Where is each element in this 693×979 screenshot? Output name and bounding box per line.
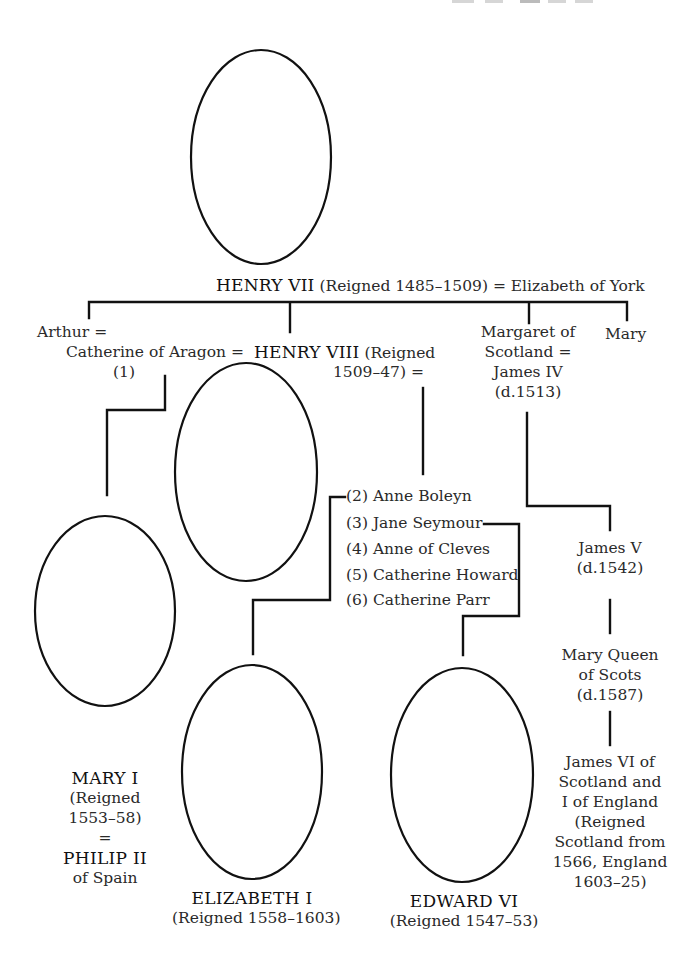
james-v-name: James V — [560, 538, 660, 558]
wife-jane-seymour: (3) Jane Seymour — [346, 514, 482, 533]
henry-vii-detail: (Reigned 1485–1509) — [319, 277, 487, 295]
margaret-line: Margaret of — [469, 322, 587, 342]
margaret-line: James IV — [469, 362, 587, 382]
margaret-line: (d.1513) — [469, 382, 587, 402]
edward-vi-name: EDWARD VI — [384, 891, 544, 911]
james-vi-line: 1566, England — [550, 852, 670, 872]
philip-ii-name: PHILIP II — [45, 848, 165, 868]
wife-catherine-parr: (6) Catherine Parr — [346, 591, 490, 610]
james-vi-line: 1603–25) — [550, 872, 670, 892]
philip-ii-detail: of Spain — [45, 868, 165, 888]
elizabeth-i-name: ELIZABETH I — [172, 888, 332, 908]
mary-sister-label: Mary — [605, 325, 646, 344]
portrait-mary-i — [35, 516, 175, 706]
henry-viii-detail-2: 1509–47) = — [333, 363, 424, 382]
henry-viii-label: HENRY VIII (Reigned — [254, 343, 435, 363]
mary-i-name: MARY I — [45, 768, 165, 788]
margaret-line: Scotland = — [469, 342, 587, 362]
portrait-elizabeth-i — [182, 665, 322, 879]
james-v-label: James V (d.1542) — [560, 538, 660, 578]
james-vi-label: James VI of Scotland and I of England (R… — [550, 752, 670, 892]
james-vi-line: James VI of — [550, 752, 670, 772]
james-vi-line: I of England — [550, 792, 670, 812]
portrait-henry-vii — [191, 50, 331, 264]
elizabeth-i-label: ELIZABETH I (Reigned 1558–1603) — [172, 888, 332, 928]
mary-qos-line: (d.1587) — [555, 685, 665, 705]
margaret-of-scotland-label: Margaret of Scotland = James IV (d.1513) — [469, 322, 587, 402]
edward-vi-label: EDWARD VI (Reigned 1547–53) — [384, 891, 544, 931]
james-vi-line: Scotland and — [550, 772, 670, 792]
wife-catherine-howard: (5) Catherine Howard — [346, 566, 519, 585]
henry-vii-label: HENRY VII (Reigned 1485–1509) = Elizabet… — [216, 276, 645, 296]
mary-i-line: (Reigned — [45, 788, 165, 808]
catherine-number: (1) — [113, 363, 135, 382]
mary-qos-line: Mary Queen — [555, 645, 665, 665]
henry-viii-detail: (Reigned — [364, 344, 435, 362]
connector-margaret-james5 — [527, 413, 610, 530]
wife-anne-of-cleves: (4) Anne of Cleves — [346, 540, 490, 559]
henry-vii-name: HENRY VII — [216, 275, 315, 295]
mary-queen-of-scots-label: Mary Queen of Scots (d.1587) — [555, 645, 665, 705]
connector-catherine-mary1 — [107, 376, 165, 495]
mary-i-label: MARY I (Reigned 1553–58) = PHILIP II of … — [45, 768, 165, 888]
catherine-of-aragon-label: Catherine of Aragon = — [66, 343, 244, 362]
henry-viii-name: HENRY VIII — [254, 342, 359, 362]
edward-vi-detail: (Reigned 1547–53) — [384, 911, 544, 931]
james-v-detail: (d.1542) — [560, 558, 660, 578]
james-vi-line: Scotland from — [550, 832, 670, 852]
portrait-edward-vi — [391, 668, 533, 882]
elizabeth-i-detail: (Reigned 1558–1603) — [172, 908, 332, 928]
mary-i-line: 1553–58) — [45, 808, 165, 828]
henry-vii-spouse: = Elizabeth of York — [493, 277, 645, 295]
mary-i-line: = — [45, 828, 165, 848]
mary-qos-line: of Scots — [555, 665, 665, 685]
portrait-henry-viii — [175, 363, 317, 581]
wife-anne-boleyn: (2) Anne Boleyn — [346, 487, 472, 506]
james-vi-line: (Reigned — [550, 812, 670, 832]
arthur-label: Arthur = — [37, 323, 107, 342]
